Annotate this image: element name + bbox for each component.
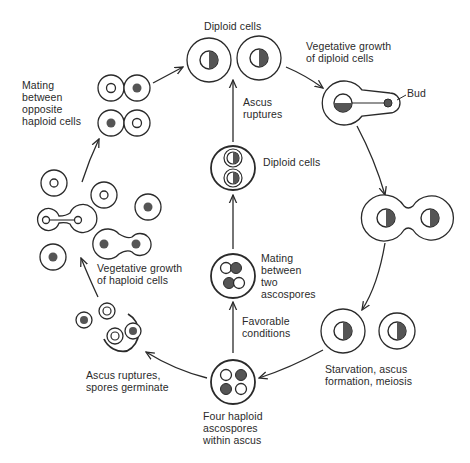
label-veg-haploid-2: of haploid cells xyxy=(97,275,168,287)
budding-diploid-cell xyxy=(322,81,406,125)
dividing-diploid-cells xyxy=(361,195,453,241)
arrow-starvation-to-ascus xyxy=(259,350,323,378)
label-diploid-cells-top: Diploid cells xyxy=(204,21,261,33)
arrow-haploid-to-mating xyxy=(82,139,99,182)
ruptured-ascus xyxy=(76,303,141,351)
arrow-dumbbell-to-starvation xyxy=(362,243,385,310)
arrow-budding-to-dumbbell xyxy=(357,126,385,195)
label-mating-haploid-4: haploid cells xyxy=(22,116,81,128)
label-starvation-1: Starvation, ascus xyxy=(325,364,407,376)
label-ascus-ruptures-spores-1: Ascus ruptures, xyxy=(86,370,160,382)
label-diploid-cells-center: Diploid cells xyxy=(263,157,320,169)
label-ascus-ruptures-spores-2: spores germinate xyxy=(86,382,169,394)
label-four-haploid-1: Four haploid xyxy=(203,411,263,423)
label-vegetative-growth-diploid-2: of diploid cells xyxy=(306,53,374,65)
label-mating-haploid-1: Mating xyxy=(22,80,54,92)
yeast-life-cycle-diagram: Diploid cells Vegetative growth of diplo… xyxy=(0,0,470,463)
starvation-cells xyxy=(321,309,415,353)
label-mating-haploid-2: between xyxy=(22,92,62,104)
label-favorable-2: conditions xyxy=(242,328,290,340)
arrow-mating-to-diploid xyxy=(153,67,183,83)
label-starvation-2: formation, meiosis xyxy=(325,376,412,388)
diagram-canvas xyxy=(0,0,470,463)
ascus-four-spores xyxy=(211,360,255,404)
label-veg-haploid-1: Vegetative growth xyxy=(97,263,182,275)
label-ascus-ruptures-2: ruptures xyxy=(243,109,282,121)
arrow-diploid-to-budding xyxy=(286,67,323,88)
label-bud: Bud xyxy=(407,88,426,100)
label-four-haploid-3: within ascus xyxy=(203,435,261,447)
haploid-cells xyxy=(38,170,161,270)
label-mating-ascospores-1: Mating xyxy=(261,253,293,265)
label-four-haploid-2: ascospores xyxy=(203,423,258,435)
label-mating-ascospores-3: two xyxy=(261,277,278,289)
ascus-diploid-cells xyxy=(211,146,255,190)
mating-haploid-pairs xyxy=(98,75,150,136)
label-mating-haploid-3: opposite xyxy=(22,104,63,116)
label-mating-ascospores-2: between xyxy=(261,265,301,277)
label-mating-ascospores-4: ascospores xyxy=(261,289,316,301)
ascus-mating-spores xyxy=(211,254,255,298)
label-ascus-ruptures-1: Ascus xyxy=(243,97,272,109)
diploid-cells-top xyxy=(187,36,281,82)
label-vegetative-growth-diploid-1: Vegetative growth xyxy=(306,41,391,53)
label-favorable-1: Favorable xyxy=(242,316,290,328)
arrow-rupture-to-haploid xyxy=(81,258,98,297)
